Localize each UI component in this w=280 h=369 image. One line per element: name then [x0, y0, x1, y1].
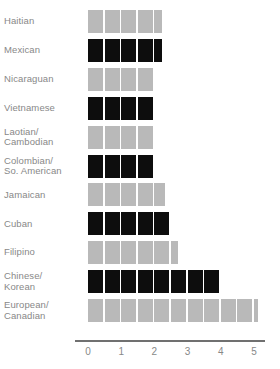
x-tick-label: 0 [78, 346, 98, 358]
category-label-line: Cuban [4, 219, 84, 230]
category-label-line: Cambodian [4, 137, 84, 148]
category-label-line: Haitian [4, 16, 84, 27]
bar [88, 126, 157, 149]
bar-segment [88, 126, 103, 149]
bar-segment [154, 212, 169, 235]
bar [88, 299, 262, 322]
category-label-line: So. American [4, 166, 84, 177]
bar-segment [188, 299, 203, 322]
bar-segment [138, 155, 153, 178]
bar-segment [221, 299, 236, 322]
category-label-line: Filipino [4, 247, 84, 258]
bar-row: Filipino [0, 241, 280, 270]
bar [88, 270, 224, 293]
bar-segment [138, 126, 153, 149]
bar-row: Cuban [0, 212, 280, 241]
bar [88, 68, 157, 91]
bar-segment [138, 183, 153, 206]
category-label: Nicaraguan [4, 74, 84, 85]
bar-segment [121, 212, 136, 235]
bar-segment [105, 155, 120, 178]
bar-segment [237, 299, 252, 322]
bar-segment [138, 10, 153, 33]
bar-segment [105, 299, 120, 322]
bar-segment [154, 270, 169, 293]
plot-area: HaitianMexicanNicaraguanVietnameseLaotia… [0, 0, 280, 369]
category-label-line: Canadian [4, 311, 84, 322]
bar-segment-partial [154, 10, 162, 33]
bar [88, 241, 182, 264]
bar-segment [121, 155, 136, 178]
bar-segment [88, 10, 103, 33]
bar-segment-partial [154, 183, 165, 206]
bar-segment [88, 241, 103, 264]
bar-segment [121, 183, 136, 206]
bar-segment [138, 270, 153, 293]
bar-segment [88, 299, 103, 322]
bar-segment [138, 299, 153, 322]
category-label-line: Mexican [4, 45, 84, 56]
bar-segment [138, 241, 153, 264]
bar-segment [88, 270, 103, 293]
bar-row: Vietnamese [0, 97, 280, 126]
category-label: Filipino [4, 247, 84, 258]
bar-segment [121, 299, 136, 322]
x-tick-label: 1 [111, 346, 131, 358]
bar [88, 39, 166, 62]
category-label: Laotian/Cambodian [4, 127, 84, 148]
bar-segment [121, 270, 136, 293]
bar-segment [88, 155, 103, 178]
bar-row: Colombian/So. American [0, 155, 280, 184]
category-label: Haitian [4, 16, 84, 27]
bar [88, 10, 166, 33]
bar-segment [105, 97, 120, 120]
bar-row: Jamaican [0, 183, 280, 212]
bar-segment-partial [254, 299, 259, 322]
category-label: Colombian/So. American [4, 156, 84, 177]
bar-segment [171, 270, 186, 293]
bar-segment [138, 68, 153, 91]
bar-segment [204, 270, 219, 293]
category-label: Mexican [4, 45, 84, 56]
category-label-line: Nicaraguan [4, 74, 84, 85]
bar [88, 155, 157, 178]
bar-row: Haitian [0, 10, 280, 39]
bar-segment [88, 68, 103, 91]
category-label-line: Vietnamese [4, 103, 84, 114]
bar-segment-partial [171, 241, 179, 264]
bar-row: Laotian/Cambodian [0, 126, 280, 155]
bar-segment [105, 126, 120, 149]
bar-segment [121, 10, 136, 33]
category-label: Chinese/Korean [4, 271, 84, 292]
bar-segment [105, 68, 120, 91]
bar-segment [188, 270, 203, 293]
bar-segment [204, 299, 219, 322]
category-label-line: Jamaican [4, 190, 84, 201]
bar-segment [105, 241, 120, 264]
bar-segment [154, 299, 169, 322]
bar-row: Nicaraguan [0, 68, 280, 97]
bar-segment [88, 212, 103, 235]
bar-segment [105, 270, 120, 293]
category-label: Jamaican [4, 190, 84, 201]
bar-segment [138, 39, 153, 62]
bar-segment [88, 97, 103, 120]
bar [88, 97, 157, 120]
bar-row: Mexican [0, 39, 280, 68]
category-label: Cuban [4, 219, 84, 230]
bar-segment [88, 39, 103, 62]
bar-row: Chinese/Korean [0, 270, 280, 299]
bar [88, 212, 174, 235]
bar-segment [88, 183, 103, 206]
bar-segment-partial [154, 39, 162, 62]
bar-segment [138, 97, 153, 120]
x-tick-label: 5 [244, 346, 264, 358]
x-tick-label: 3 [178, 346, 198, 358]
bar-segment [105, 212, 120, 235]
bar-segment [105, 10, 120, 33]
bar-segment [121, 68, 136, 91]
x-tick-label: 4 [211, 346, 231, 358]
bar-segment [171, 299, 186, 322]
bar-segment [154, 241, 169, 264]
x-tick-label: 2 [144, 346, 164, 358]
